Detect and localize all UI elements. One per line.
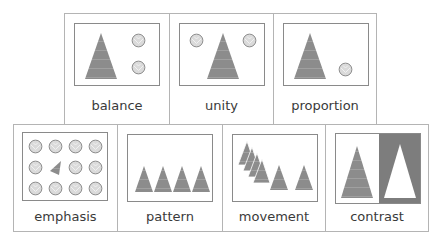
- triangle-shape: [173, 166, 191, 192]
- circle-icon: [49, 140, 62, 153]
- circle-icon: [190, 34, 203, 47]
- triangle-shape: [341, 146, 373, 198]
- triangle-shape: [295, 165, 313, 190]
- card-unity: unity: [169, 13, 274, 125]
- circle-icon: [132, 34, 145, 47]
- proportion-frame: [283, 23, 369, 86]
- card-label: proportion: [274, 98, 376, 113]
- emphasis-illustration: [23, 133, 108, 201]
- triangle-shape: [270, 165, 288, 190]
- card-contrast: contrast: [325, 124, 429, 232]
- circle-icon: [69, 140, 82, 153]
- triangle-shape: [154, 166, 172, 192]
- card-label: unity: [170, 98, 273, 113]
- card-label: contrast: [326, 209, 428, 224]
- unity-frame: [179, 23, 265, 86]
- triangle-shape: [135, 166, 153, 192]
- card-label: pattern: [118, 209, 222, 224]
- card-pattern: pattern: [117, 124, 223, 232]
- circle-icon: [89, 161, 102, 174]
- triangle-shape: [207, 33, 239, 79]
- circle-icon: [29, 140, 42, 153]
- triangle-shape: [192, 166, 210, 192]
- circle-icon: [89, 182, 102, 195]
- contrast-illustration: [336, 134, 421, 204]
- emphasis-frame: [22, 132, 108, 201]
- pattern-illustration: [128, 135, 213, 202]
- card-label: balance: [65, 98, 169, 113]
- proportion-illustration: [284, 24, 369, 86]
- triangle-shape: [85, 33, 117, 79]
- triangle-shape: [294, 33, 326, 79]
- circle-icon: [339, 63, 352, 76]
- circle-icon: [243, 34, 256, 47]
- circle-icon: [69, 161, 82, 174]
- circle-icon: [69, 182, 82, 195]
- balance-illustration: [75, 24, 160, 86]
- movement-illustration: [233, 135, 318, 202]
- balance-frame: [74, 23, 160, 86]
- card-movement: movement: [222, 124, 326, 232]
- unity-illustration: [180, 24, 265, 86]
- card-label: emphasis: [14, 209, 117, 224]
- movement-frame: [232, 134, 318, 202]
- card-label: movement: [223, 209, 325, 224]
- circle-icon: [89, 140, 102, 153]
- contrast-frame: [335, 133, 421, 204]
- circle-icon: [49, 182, 62, 195]
- card-emphasis: emphasis: [13, 124, 118, 232]
- card-proportion: proportion: [273, 13, 377, 125]
- circle-icon: [132, 61, 145, 74]
- small-triangle-emphasis: [50, 161, 61, 175]
- circle-icon: [29, 161, 42, 174]
- card-balance: balance: [64, 13, 170, 125]
- circle-icon: [29, 182, 42, 195]
- pattern-frame: [127, 134, 213, 202]
